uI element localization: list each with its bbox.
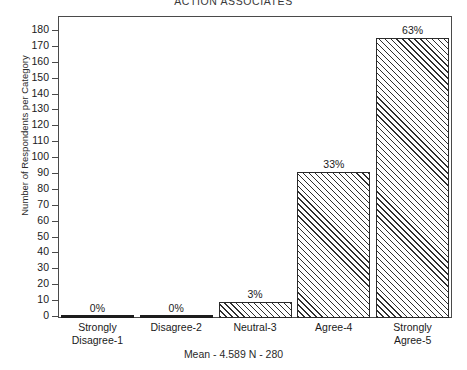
x-axis-label: Agree-4 — [294, 321, 373, 334]
plot-frame — [58, 16, 452, 318]
y-axis-tick-label: 180 — [31, 23, 49, 35]
chart-annotation: Mean - 4.589 N - 280 — [0, 348, 467, 360]
y-axis-tick-label: 160 — [31, 55, 49, 67]
chart-title: ACTION ASSOCIATES — [0, 0, 467, 7]
y-axis-tick-label: 120 — [31, 118, 49, 130]
y-axis-tick-label: 140 — [31, 87, 49, 99]
y-axis-tick-label: 150 — [31, 71, 49, 83]
y-axis-tick-label: 20 — [37, 277, 49, 289]
y-axis-tick-label: 30 — [37, 261, 49, 273]
x-axis-label-line: Strongly — [373, 321, 452, 334]
x-axis-label-line: Agree-5 — [373, 334, 452, 347]
x-axis-label: Neutral-3 — [216, 321, 295, 334]
x-axis-label-line: Strongly — [58, 321, 137, 334]
y-axis-tick-label: 50 — [37, 230, 49, 242]
x-axis-label: StronglyDisagree-1 — [58, 321, 137, 346]
x-axis-labels: StronglyDisagree-1Disagree-2Neutral-3Agr… — [58, 321, 452, 351]
y-axis-tick-label: 100 — [31, 150, 49, 162]
x-axis-label-line: Disagree-2 — [137, 321, 216, 334]
x-axis-label-line: Agree-4 — [294, 321, 373, 334]
y-axis-tick-label: 0 — [43, 309, 49, 321]
y-axis-tick-label: 40 — [37, 245, 49, 257]
y-axis-tick-label: 90 — [37, 166, 49, 178]
y-axis-tick-label: 80 — [37, 182, 49, 194]
y-axis-ticks: 0102030405060708090100110120130140150160… — [0, 16, 58, 318]
x-axis-label-line: Neutral-3 — [216, 321, 295, 334]
y-axis-tick-label: 70 — [37, 198, 49, 210]
y-axis-tick-label: 110 — [32, 134, 49, 146]
y-axis-tick-label: 130 — [31, 102, 49, 114]
y-axis-tick-label: 60 — [37, 214, 49, 226]
y-axis-tick-label: 10 — [37, 293, 49, 305]
x-axis-label-line: Disagree-1 — [58, 334, 137, 347]
x-axis-label: StronglyAgree-5 — [373, 321, 452, 346]
y-axis-tick-label: 170 — [31, 39, 49, 51]
x-axis-label: Disagree-2 — [137, 321, 216, 334]
